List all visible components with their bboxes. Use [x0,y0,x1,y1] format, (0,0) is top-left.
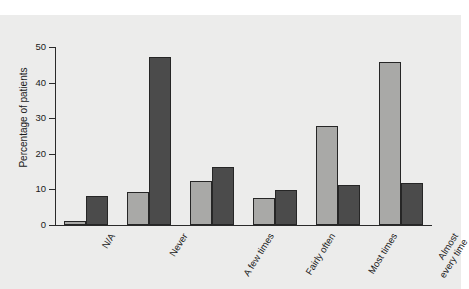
bar-series-dark-4 [338,185,360,225]
bar-series-light-4 [316,126,338,225]
bar-series-light-5 [379,62,401,225]
y-axis-tick [49,47,55,48]
bar-series-dark-3 [275,190,297,225]
x-axis-line [55,225,432,226]
bar-series-light-1 [127,192,149,225]
y-axis-tick [49,83,55,84]
y-axis-title: Percentage of patients [18,43,29,193]
x-axis-category-label: A few times [241,231,276,278]
bar-series-dark-0 [86,196,108,225]
y-axis-tick-label-wrap: 0 [10,220,46,230]
x-axis-category-label: N/A [100,231,118,250]
bar-series-light-3 [253,198,275,225]
bar-series-light-0 [64,221,86,225]
x-axis-category-label: Fairly often [303,231,337,277]
y-axis-tick-label: 0 [12,220,46,229]
bar-series-dark-1 [149,57,171,225]
x-axis-category-label: Never [167,231,190,258]
bar-series-light-2 [190,181,212,225]
bar-series-dark-5 [401,183,423,225]
x-axis-category-label: Almost every time [427,231,469,280]
y-axis-tick [49,118,55,119]
bar-series-dark-2 [212,167,234,225]
y-axis-line [55,47,56,226]
x-axis-category-label: Most times [365,231,399,276]
y-axis-tick [49,154,55,155]
y-axis-tick [49,189,55,190]
y-axis-tick [49,225,55,226]
